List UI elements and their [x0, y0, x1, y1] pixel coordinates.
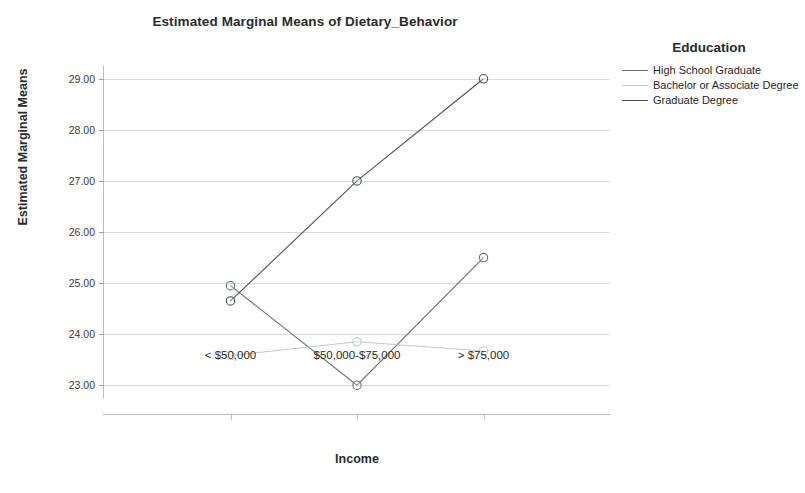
y-tick-label: 29.00: [69, 73, 95, 85]
x-category-label: < $50,000: [205, 349, 256, 361]
y-axis-title: Estimated Marginal Means: [16, 32, 30, 262]
legend-label: Bachelor or Associate Degree: [653, 79, 799, 91]
data-point-marker: [479, 75, 487, 83]
y-tick-label: 27.00: [69, 175, 95, 187]
y-tick-label: 25.00: [69, 277, 95, 289]
legend-item: High School Graduate: [622, 64, 802, 76]
legend: Edducation High School GraduateBachelor …: [622, 40, 802, 109]
data-point-marker: [226, 297, 234, 305]
legend-item: Graduate Degree: [622, 94, 802, 106]
legend-line-swatch: [622, 100, 648, 101]
x-tick-mark: [357, 415, 358, 420]
series-3: [226, 75, 487, 306]
legend-line-swatch: [622, 85, 648, 86]
series-1: [226, 253, 487, 389]
chart-title: Estimated Marginal Means of Dietary_Beha…: [0, 14, 610, 29]
chart-container: Estimated Marginal Means of Dietary_Beha…: [0, 0, 805, 493]
x-tick-mark: [231, 415, 232, 420]
legend-item: Bachelor or Associate Degree: [622, 79, 802, 91]
data-point-marker: [226, 281, 234, 289]
legend-title: Edducation: [622, 40, 802, 55]
x-axis-title: Income: [104, 452, 610, 466]
legend-label: Graduate Degree: [653, 94, 738, 106]
data-point-marker: [479, 253, 487, 261]
y-tick-label: 26.00: [69, 226, 95, 238]
y-tick-label: 24.00: [69, 328, 95, 340]
legend-line-swatch: [622, 70, 648, 71]
data-point-marker: [353, 381, 361, 389]
y-tick-label: 23.00: [69, 379, 95, 391]
x-category-label: $50,000-$75,000: [314, 349, 401, 361]
x-tick-mark: [484, 415, 485, 420]
data-point-marker: [353, 177, 361, 185]
legend-label: High School Graduate: [653, 64, 761, 76]
series-line: [231, 79, 484, 301]
y-tick-label: 28.00: [69, 124, 95, 136]
legend-items: High School GraduateBachelor or Associat…: [622, 64, 802, 106]
series-line: [231, 258, 484, 386]
x-category-label: > $75,000: [458, 349, 509, 361]
data-point-marker: [353, 338, 361, 346]
